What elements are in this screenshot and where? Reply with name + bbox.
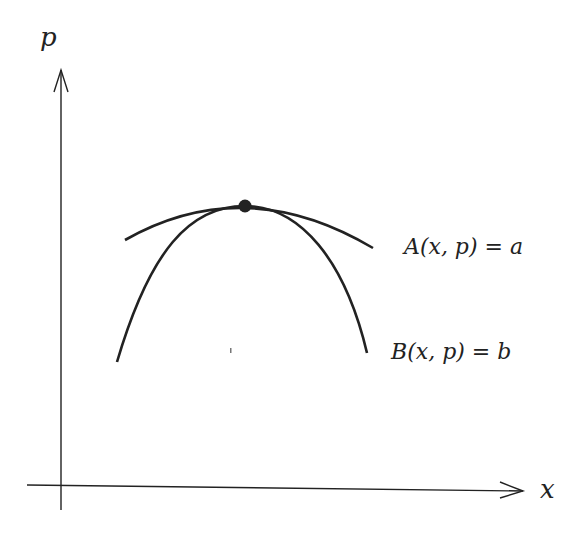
curve-b-label: B(x, p) = b bbox=[391, 339, 511, 364]
tangent-point-dot bbox=[239, 200, 252, 213]
curve-b bbox=[117, 206, 367, 362]
curve-a-label: A(x, p) = a bbox=[404, 234, 523, 259]
p-axis-label: p bbox=[40, 22, 57, 52]
diagram-canvas bbox=[0, 0, 580, 538]
curve-a bbox=[125, 208, 373, 248]
x-axis bbox=[27, 485, 523, 491]
x-axis-label: x bbox=[540, 474, 555, 504]
speck bbox=[230, 348, 232, 353]
x-axis-arrowhead bbox=[500, 482, 523, 498]
